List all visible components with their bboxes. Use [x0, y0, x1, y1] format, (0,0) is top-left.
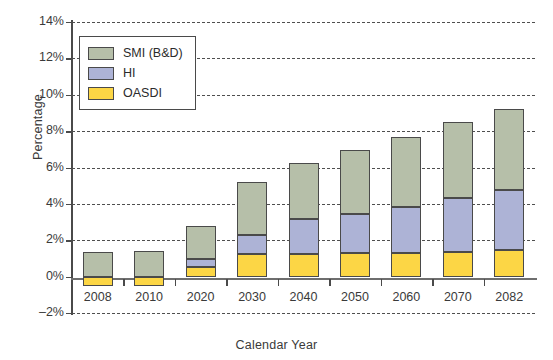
x-tick-label: 2082	[479, 290, 539, 304]
y-tick-label: 6%	[20, 160, 64, 174]
bar-segment-oasdi	[289, 254, 319, 277]
x-tick-mark	[226, 279, 227, 286]
bar-segment-smi	[237, 182, 267, 235]
bar-segment-smi	[391, 137, 421, 207]
legend-item-oasdi: OASDI	[88, 83, 183, 103]
bar-segment-oasdi	[494, 250, 524, 276]
bar-segment-hi	[237, 235, 267, 254]
stacked-bar-chart: Percentage –2%0%2%4%6%8%10%12%14% 200820…	[0, 0, 553, 360]
bar-segment-hi	[186, 259, 216, 266]
x-tick-mark	[278, 279, 279, 286]
bar-group	[237, 22, 267, 313]
legend-label-oasdi: OASDI	[123, 86, 162, 100]
bar-group	[391, 22, 421, 313]
x-axis-title: Calendar Year	[0, 338, 553, 352]
bar-segment-hi	[289, 219, 319, 254]
bar-segment-hi	[340, 214, 370, 253]
bar-segment-oasdi	[391, 253, 421, 277]
chart-legend: SMI (B&D) HI OASDI	[79, 36, 196, 110]
bar-segment-oasdi	[134, 277, 164, 286]
bar-segment-smi	[289, 163, 319, 219]
y-tick-label: 4%	[20, 196, 64, 210]
gridline	[72, 313, 535, 314]
x-tick-mark	[432, 279, 433, 286]
bar-segment-oasdi	[186, 267, 216, 277]
x-tick-mark	[381, 279, 382, 286]
y-tick-label: 2%	[20, 232, 64, 246]
bar-segment-hi	[494, 190, 524, 250]
x-tick-mark	[175, 279, 176, 286]
bar-group	[340, 22, 370, 313]
legend-item-smi: SMI (B&D)	[88, 43, 183, 63]
y-tick-label: 14%	[20, 14, 64, 28]
x-tick-mark	[123, 279, 124, 286]
x-tick-mark	[329, 279, 330, 286]
bar-group	[443, 22, 473, 313]
bar-segment-hi	[391, 207, 421, 253]
bar-segment-oasdi	[443, 252, 473, 277]
bar-segment-hi	[443, 198, 473, 252]
y-tick-label: 0%	[20, 269, 64, 283]
bar-segment-smi	[186, 226, 216, 260]
bar-segment-smi	[340, 150, 370, 214]
legend-label-smi: SMI (B&D)	[123, 46, 183, 60]
bar-group	[289, 22, 319, 313]
bar-segment-smi	[443, 122, 473, 198]
bar-segment-oasdi	[83, 277, 113, 286]
bar-group	[494, 22, 524, 313]
bar-segment-smi	[83, 252, 113, 277]
y-tick-label: 10%	[20, 87, 64, 101]
legend-swatch-hi-icon	[88, 67, 114, 80]
bar-segment-smi	[134, 251, 164, 276]
x-tick-mark	[484, 279, 485, 286]
bar-segment-oasdi	[340, 253, 370, 277]
legend-label-hi: HI	[123, 66, 136, 80]
legend-item-hi: HI	[88, 63, 183, 83]
bar-segment-smi	[494, 109, 524, 190]
y-tick-label: 8%	[20, 123, 64, 137]
y-tick-label: –2%	[20, 305, 64, 319]
legend-swatch-smi-icon	[88, 47, 114, 60]
legend-swatch-oasdi-icon	[88, 87, 114, 100]
y-tick-label: 12%	[20, 50, 64, 64]
bar-segment-oasdi	[237, 254, 267, 277]
